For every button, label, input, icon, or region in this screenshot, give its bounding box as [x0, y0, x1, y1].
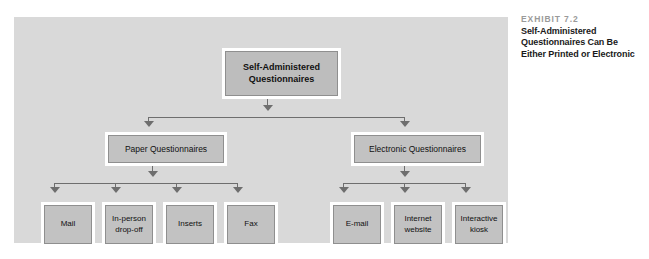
node-internet-website: Internet website	[391, 202, 445, 247]
exhibit-figure: Self-Administered Questionnaires Paper Q…	[0, 0, 649, 259]
arrow-root-down-icon	[263, 105, 273, 111]
node-mail: Mail	[41, 202, 95, 247]
node-body: E-mail	[333, 205, 381, 244]
arrow-email-down-icon	[339, 187, 349, 193]
connector-paper-bus	[54, 183, 237, 184]
node-body: Inserts	[166, 205, 214, 244]
exhibit-title-line-3: Either Printed or Electronic	[521, 49, 635, 59]
arrow-paper-split-down-icon	[148, 171, 158, 177]
node-label: Inserts	[175, 219, 205, 230]
node-body: In-person drop-off	[105, 205, 153, 244]
arrow-fax-down-icon	[233, 187, 243, 193]
exhibit-title-line-2: Questionnaires Can Be	[521, 37, 618, 47]
node-self-administered-questionnaires: Self-Administered Questionnaires	[222, 48, 341, 99]
node-label: In-person drop-off	[109, 214, 149, 235]
node-inserts: Inserts	[163, 202, 217, 247]
node-body: Self-Administered Questionnaires	[225, 51, 338, 96]
node-label: Electronic Questionnaires	[366, 144, 469, 155]
node-label-line-1: Interactive	[461, 214, 498, 223]
node-body: Paper Questionnaires	[108, 135, 224, 163]
arrow-inperson-down-icon	[111, 187, 121, 193]
node-paper-questionnaires: Paper Questionnaires	[105, 132, 227, 166]
arrow-paper-down-icon	[144, 121, 154, 127]
arrow-internet-down-icon	[400, 187, 410, 193]
node-label: E-mail	[343, 219, 372, 230]
node-email: E-mail	[330, 202, 384, 247]
node-label-line-2: kiosk	[470, 225, 488, 234]
node-fax: Fax	[224, 202, 278, 247]
node-interactive-kiosk: Interactive kiosk	[452, 202, 506, 247]
node-label: Interactive kiosk	[458, 214, 501, 235]
arrow-electronic-split-down-icon	[400, 171, 410, 177]
node-label: Fax	[241, 219, 260, 230]
node-label-line-1: Self-Administered	[243, 62, 320, 72]
node-label-line-2: website	[404, 225, 431, 234]
node-label-line-2: drop-off	[115, 225, 142, 234]
exhibit-number-label: EXHIBIT 7.2	[521, 14, 645, 25]
arrow-electronic-down-icon	[400, 121, 410, 127]
exhibit-title-line-1: Self-Administered	[521, 26, 596, 36]
arrow-inserts-down-icon	[172, 187, 182, 193]
node-body: Internet website	[394, 205, 442, 244]
node-body: Interactive kiosk	[455, 205, 503, 244]
node-electronic-questionnaires: Electronic Questionnaires	[351, 132, 484, 166]
exhibit-title: Self-Administered Questionnaires Can Be …	[521, 26, 645, 60]
node-label: Mail	[58, 219, 79, 230]
node-body: Electronic Questionnaires	[354, 135, 481, 163]
arrow-mail-down-icon	[50, 187, 60, 193]
diagram-panel: Self-Administered Questionnaires Paper Q…	[14, 17, 508, 243]
node-label-line-1: In-person	[112, 214, 146, 223]
node-label-line-2: Questionnaires	[249, 74, 315, 84]
node-label: Internet website	[401, 214, 434, 235]
node-body: Fax	[227, 205, 275, 244]
node-label: Self-Administered Questionnaires	[240, 62, 323, 85]
connector-level2-bus	[148, 117, 404, 118]
exhibit-caption: EXHIBIT 7.2 Self-Administered Questionna…	[521, 14, 645, 60]
arrow-kiosk-down-icon	[461, 187, 471, 193]
node-label-line-1: Internet	[404, 214, 431, 223]
node-in-person-drop-off: In-person drop-off	[102, 202, 156, 247]
node-label: Paper Questionnaires	[122, 144, 210, 155]
node-body: Mail	[44, 205, 92, 244]
